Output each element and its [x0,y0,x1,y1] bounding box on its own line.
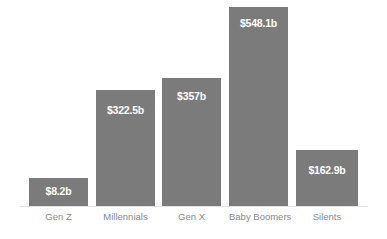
bar-value-label: $8.2b [29,186,88,197]
bar-gen-z[interactable]: $8.2b [29,178,88,207]
bar-value-label: $357b [162,91,221,102]
x-axis-category-labels: Gen Z Millennials Gen X Baby Boomers Sil… [0,211,387,231]
bar-value-label: $548.1b [229,18,288,29]
plot-area: $8.2b $322.5b $357b $548.1b $162.9b [0,0,387,207]
bar-value-label: $322.5b [96,105,155,116]
bar-group-silents[interactable]: $162.9b [296,0,358,207]
bar-millennials[interactable]: $322.5b [96,90,155,207]
category-label-gen-z: Gen Z [29,211,88,223]
bar-group-gen-z[interactable]: $8.2b [29,0,88,207]
bar-silents[interactable]: $162.9b [296,150,358,207]
bar-value-label: $162.9b [296,165,358,176]
category-label-silents: Silents [296,211,358,223]
bar-chart: $8.2b $322.5b $357b $548.1b $162.9b Gen [0,0,387,239]
bar-gen-x[interactable]: $357b [162,78,221,207]
bar-group-millennials[interactable]: $322.5b [96,0,155,207]
category-label-baby-boomers: Baby Boomers [229,211,288,223]
x-axis-line [20,206,368,207]
bar-group-baby-boomers[interactable]: $548.1b [229,0,288,207]
bar-baby-boomers[interactable]: $548.1b [229,7,288,207]
category-label-gen-x: Gen X [162,211,221,223]
bar-group-gen-x[interactable]: $357b [162,0,221,207]
category-label-millennials: Millennials [96,211,155,223]
